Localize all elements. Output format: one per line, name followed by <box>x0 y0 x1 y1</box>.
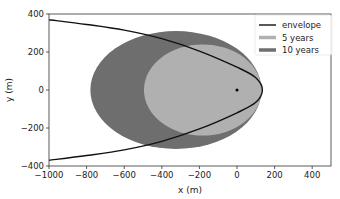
y-axis: −400−2000200400 <box>21 9 49 171</box>
origin-point <box>236 89 239 92</box>
y-tick-label: 0 <box>39 85 44 95</box>
y-tick-label: 400 <box>28 9 44 19</box>
x-tick-label: −200 <box>188 170 211 180</box>
x-axis-label: x (m) <box>178 185 202 195</box>
y-tick-label: −200 <box>21 123 44 133</box>
ellipse-5-years <box>144 44 262 135</box>
x-tick-label: 200 <box>266 170 282 180</box>
legend-label: 5 years <box>282 33 314 43</box>
legend-label: 10 years <box>282 45 319 55</box>
x-tick-label: 0 <box>234 170 239 180</box>
x-tick-label: −1000 <box>35 170 64 180</box>
legend-label: envelope <box>282 20 321 30</box>
y-tick-label: −400 <box>21 161 44 171</box>
legend: envelope5 years10 years <box>255 15 332 55</box>
x-tick-label: −600 <box>113 170 136 180</box>
x-tick-label: −400 <box>150 170 173 180</box>
plot-area <box>49 20 262 161</box>
chart: −1000−800−600−400−2000200400 −400−200020… <box>0 0 340 199</box>
x-tick-label: 400 <box>304 170 320 180</box>
x-tick-label: −800 <box>75 170 98 180</box>
y-axis-label: y (m) <box>4 78 14 102</box>
x-axis: −1000−800−600−400−2000200400 <box>35 166 321 180</box>
y-tick-label: 200 <box>28 47 44 57</box>
